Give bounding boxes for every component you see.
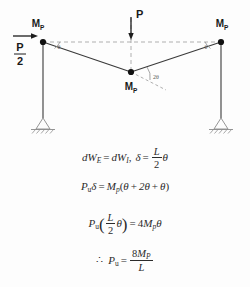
horizontal-load-label-denominator: 2	[17, 55, 23, 67]
hinge-label-apex-main: M	[125, 81, 133, 92]
eq4-numerator-sub: P	[146, 252, 151, 261]
eq3-theta-2: θ	[156, 217, 161, 229]
figure-root: MP MP MP θ θ 2θ P P 2 dWE=dWI,δ=L2θ	[0, 0, 250, 287]
eq3-open-paren: (	[99, 215, 105, 234]
hinge-label-right-top-main: M	[216, 18, 224, 29]
equation-block: dWE=dWI,δ=L2θ Puδ=Mp(θ+2θ+θ) Pu(L2θ)=4Mp…	[0, 140, 250, 287]
left-rafter-member	[43, 42, 131, 72]
eq4-fraction-numerator: 8MP	[130, 248, 153, 262]
equation-line-1: dWE=dWI,δ=L2θ	[0, 146, 250, 170]
eq2-plus-2: +	[152, 180, 158, 192]
eq1-theta: θ	[163, 151, 168, 163]
angle-label-apex: 2θ	[153, 74, 159, 80]
eq2-term-2: 2θ	[139, 180, 150, 192]
equation-line-2: Puδ=Mp(θ+2θ+θ)	[0, 180, 250, 194]
eq2-p: P	[81, 180, 88, 192]
plastic-hinge-apex	[128, 69, 134, 75]
vertical-load-arrowhead	[128, 33, 133, 40]
eq4-equals: =	[121, 254, 127, 266]
eq1-rhs-w: W	[117, 151, 126, 163]
hinge-label-right-top: MP	[216, 18, 229, 31]
equation-line-4: ∴Pu=8MPL	[0, 248, 250, 274]
hinge-label-apex: MP	[125, 81, 138, 94]
eq2-term-1: θ	[123, 180, 128, 192]
plastic-hinge-right-top	[218, 39, 224, 45]
eq2-delta: δ	[91, 180, 96, 192]
hinge-label-left-top-main: M	[32, 18, 40, 29]
eq1-comma: ,	[129, 151, 132, 163]
left-support-triangle	[36, 118, 50, 129]
eq3-fraction-numerator: L	[106, 212, 116, 224]
frame-mechanism-diagram: MP MP MP θ θ 2θ P P 2	[0, 0, 250, 140]
hinge-label-right-top-sub: P	[224, 24, 229, 31]
angle-label-left: θ	[58, 44, 61, 50]
plastic-hinge-left-top	[40, 39, 46, 45]
eq1-fraction-denominator: 2	[152, 158, 162, 170]
right-rafter-member	[131, 42, 221, 72]
hinge-label-left-top: MP	[32, 18, 45, 31]
hinge-label-left-top-sub: P	[40, 24, 45, 31]
eq1-fraction: L2	[152, 146, 162, 170]
apex-angle-arc	[147, 67, 150, 80]
equation-line-3: Pu(L2θ)=4Mpθ	[0, 212, 250, 236]
eq1-equals-2: =	[143, 151, 149, 163]
vertical-load-label: P	[136, 8, 143, 20]
eq4-fraction: 8MPL	[130, 248, 153, 274]
eq1-lhs-w: W	[88, 151, 97, 163]
eq1-lhs-sub: E	[97, 156, 102, 165]
eq2-close-paren: )	[165, 180, 169, 192]
frame-svg: MP MP MP θ θ 2θ P P 2	[0, 0, 250, 140]
eq1-fraction-numerator: L	[152, 146, 162, 158]
eq3-fraction: L2	[106, 212, 116, 236]
horizontal-load-arrowhead	[31, 33, 38, 38]
eq3-fraction-denominator: 2	[106, 224, 116, 236]
eq2-plus-1: +	[131, 180, 137, 192]
eq4-therefore-symbol: ∴	[96, 254, 103, 266]
eq4-fraction-denominator: L	[130, 261, 153, 273]
angle-label-right: θ	[205, 44, 208, 50]
right-support-triangle	[214, 118, 228, 129]
eq1-delta: δ	[135, 151, 140, 163]
eq3-equals: =	[130, 217, 136, 229]
eq3-close-paren: )	[122, 215, 128, 234]
eq4-p-sub: u	[115, 259, 119, 268]
horizontal-load-label-numerator: P	[16, 41, 23, 53]
left-support-hatching	[32, 130, 54, 134]
eq2-m: M	[107, 180, 116, 192]
eq2-equals: =	[98, 180, 104, 192]
hinge-label-apex-sub: P	[133, 87, 138, 94]
eq4-numerator-m: M	[137, 248, 146, 259]
right-support-hatching	[210, 130, 232, 134]
eq1-equals: =	[103, 151, 109, 163]
